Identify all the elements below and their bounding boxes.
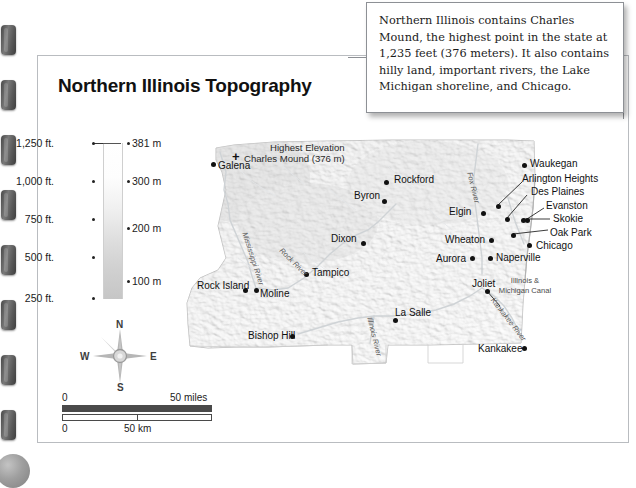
city-dot xyxy=(521,218,526,223)
binding-mark xyxy=(1,355,16,385)
legend-meter-label: 381 m xyxy=(132,137,161,149)
city-label: Skokie xyxy=(553,213,583,224)
elevation-gradient-bar xyxy=(103,143,123,299)
legend-tick-dot-right xyxy=(127,280,130,283)
scale-km-label: 50 km xyxy=(124,423,151,434)
city-label: Des Plaines xyxy=(531,186,584,197)
page-title: Northern Illinois Topography xyxy=(58,75,312,97)
legend-tick-dot-left xyxy=(92,142,95,145)
binding-mark xyxy=(1,25,16,55)
city-label: Moline xyxy=(260,288,289,299)
legend-feet-label: 750 ft. xyxy=(0,213,54,225)
city-dot xyxy=(384,180,389,185)
scale-miles-label: 50 miles xyxy=(170,392,207,403)
city-label: Bishop Hill xyxy=(248,330,295,341)
city-label: Elgin xyxy=(449,206,471,217)
legend-meter-label: 100 m xyxy=(132,275,161,287)
city-label: Tampico xyxy=(312,267,349,278)
topographic-map: + Highest Elevation Charles Mound (376 m… xyxy=(178,138,618,373)
city-dot xyxy=(522,346,527,351)
legend-feet-label: 1,000 ft. xyxy=(0,175,54,187)
charles-mound-note: Charles Mound (376 m) xyxy=(244,153,345,164)
city-dot xyxy=(489,238,494,243)
illinois-michigan-canal-label: Illinois & Michigan Canal xyxy=(498,276,552,295)
scale-miles-zero: 0 xyxy=(62,392,68,403)
legend-meter-label: 200 m xyxy=(132,222,161,234)
legend-meter-label: 300 m xyxy=(132,175,161,187)
city-label: Chicago xyxy=(536,240,573,251)
city-label: Arlington Heights xyxy=(522,173,598,184)
city-label: Evanston xyxy=(546,200,588,211)
city-label: Aurora xyxy=(436,253,466,264)
callout-box: Northern Illinois contains Charles Mound… xyxy=(366,2,624,113)
compass-star-icon xyxy=(92,328,148,384)
city-label: Joliet xyxy=(472,278,495,289)
city-dot xyxy=(481,211,486,216)
legend-tick-dot-right xyxy=(127,180,130,183)
city-label: Rock Island xyxy=(197,280,249,291)
city-label: La Salle xyxy=(395,307,431,318)
compass-east-label: E xyxy=(150,351,157,362)
legend-feet-label: 250 ft. xyxy=(0,292,54,304)
city-label: Naperville xyxy=(496,252,540,263)
binding-mark xyxy=(1,300,16,330)
legend-tick-dot-left xyxy=(92,256,95,259)
city-label: Waukegan xyxy=(530,158,577,169)
city-dot xyxy=(485,289,490,294)
spiral-binding xyxy=(0,0,22,474)
scale-km-bar xyxy=(62,414,212,421)
city-label: Galena xyxy=(218,160,250,171)
city-dot xyxy=(393,318,398,323)
binding-blob xyxy=(0,454,30,488)
city-dot xyxy=(382,199,387,204)
compass-west-label: W xyxy=(80,351,89,362)
legend-tick-dot-right xyxy=(127,142,130,145)
compass-north-label: N xyxy=(116,319,123,330)
city-dot xyxy=(527,243,532,248)
city-dot xyxy=(211,162,216,167)
city-label: Dixon xyxy=(331,233,357,244)
scale-miles-bar xyxy=(62,405,212,412)
legend-top-rule xyxy=(103,143,121,144)
binding-mark xyxy=(1,80,16,110)
legend-tick-dot-left xyxy=(92,297,95,300)
city-dot xyxy=(361,241,366,246)
legend-tick-dot-left xyxy=(92,180,95,183)
city-label: Rockford xyxy=(394,174,434,185)
city-dot xyxy=(505,217,510,222)
city-label: Kankakee xyxy=(478,343,522,354)
city-dot xyxy=(470,256,475,261)
compass-rose: N S W E xyxy=(78,320,162,396)
city-dot xyxy=(254,288,259,293)
city-label: Byron xyxy=(354,190,380,201)
legend-feet-label: 500 ft. xyxy=(0,251,54,263)
city-label: Wheaton xyxy=(445,234,485,245)
elevation-legend: 1,250 ft. 1,000 ft. 750 ft. 500 ft. 250 … xyxy=(56,136,166,306)
city-dot xyxy=(511,233,516,238)
city-dot xyxy=(522,163,527,168)
legend-tick-dot-right xyxy=(127,227,130,230)
highest-elevation-note: Highest Elevation xyxy=(270,142,345,153)
binding-mark xyxy=(1,410,16,440)
callout-leader-line xyxy=(348,57,368,58)
city-dot xyxy=(488,256,493,261)
legend-tick-left xyxy=(94,143,103,144)
scale-km-zero: 0 xyxy=(62,423,68,434)
callout-text: Northern Illinois contains Charles Mound… xyxy=(379,13,611,96)
city-label: Oak Park xyxy=(550,227,592,238)
legend-tick-dot-left xyxy=(92,218,95,221)
legend-feet-label: 1,250 ft. xyxy=(0,137,54,149)
city-dot xyxy=(496,204,501,209)
compass-south-label: S xyxy=(117,382,124,393)
